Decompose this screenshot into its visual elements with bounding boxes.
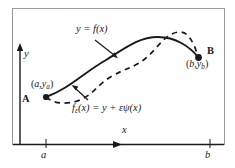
variation-label-leader-line bbox=[75, 88, 88, 100]
variational-calculus-diagram: y = f(x) fε(x) = y + εψ(x) (a,ya) (b,yb)… bbox=[0, 0, 235, 168]
x-tick-label-b: b bbox=[205, 150, 210, 161]
dashed-varied-curve bbox=[46, 32, 198, 103]
curve-equation-label: y = f(x) bbox=[76, 24, 108, 35]
x-axis-arrowhead bbox=[113, 141, 122, 148]
x-tick-label-a: a bbox=[41, 150, 46, 161]
point-a-coordinates-label: (a,ya) bbox=[31, 79, 53, 91]
endpoint-dot-a bbox=[43, 94, 49, 100]
point-b-coordinates-label: (b,yb) bbox=[186, 59, 208, 71]
x-axis-label: x bbox=[122, 125, 127, 136]
endpoint-label-a: A bbox=[22, 94, 30, 105]
variation-equation-body: (x) = y + εψ(x) bbox=[78, 102, 141, 113]
y-axis-arrowhead bbox=[17, 43, 23, 51]
point-a-paren-close: ) bbox=[50, 78, 53, 89]
endpoint-label-b: B bbox=[207, 46, 214, 57]
figure-frame bbox=[13, 9, 225, 145]
curve-label-leader-line bbox=[95, 40, 114, 55]
solid-extremal-curve bbox=[46, 37, 198, 97]
variation-equation-label: fε(x) = y + εψ(x) bbox=[72, 103, 141, 115]
point-b-paren-close: ) bbox=[205, 58, 208, 69]
y-axis-label: y bbox=[24, 49, 29, 60]
